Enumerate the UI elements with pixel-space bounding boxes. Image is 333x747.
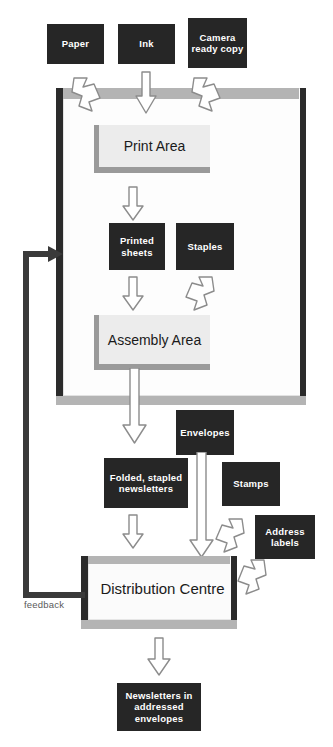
material-box-folded-stapled-newsletters[interactable]: Folded, stapled newsletters — [104, 458, 188, 508]
distribution-centre-left-edge — [81, 556, 88, 620]
material-box-ink[interactable]: Ink — [118, 24, 175, 64]
material-box-folded-stapled-newsletters-label: Folded, stapled newsletters — [106, 472, 186, 495]
process-box-print-area[interactable]: Print Area — [94, 125, 210, 173]
material-box-envelopes[interactable]: Envelopes — [176, 410, 234, 455]
material-box-address-labels-label: Address labels — [257, 526, 313, 549]
material-box-paper-label: Paper — [62, 38, 89, 50]
material-box-staples-label: Staples — [187, 241, 222, 253]
arrow-print-area-to-printed-sheets — [121, 185, 145, 223]
distribution-centre-right-edge — [231, 556, 237, 620]
material-box-camera-ready-copy-label: Camera ready copy — [190, 32, 245, 55]
material-box-printed-sheets[interactable]: Printed sheets — [109, 223, 165, 270]
arrow-ink-to-print-area — [134, 70, 158, 116]
material-box-envelopes-label: Envelopes — [180, 427, 229, 439]
arrow-assembly-area-to-folded-newsletters — [121, 368, 149, 446]
distribution-centre-top-band — [88, 556, 230, 564]
print-area-label: Print Area — [99, 125, 210, 167]
material-box-newsletters-in-addressed-envelopes[interactable]: Newsletters in addressed envelopes — [117, 683, 201, 731]
material-box-stamps-label: Stamps — [233, 478, 269, 490]
material-box-address-labels[interactable]: Address labels — [255, 515, 315, 559]
process-box-assembly-area[interactable]: Assembly Area — [94, 315, 210, 370]
production-area-right-edge — [300, 88, 306, 396]
arrow-staples-to-assembly-area — [183, 275, 216, 313]
arrow-distribution-centre-to-output — [146, 636, 172, 678]
feedback-line-bottom — [23, 592, 85, 598]
material-box-ink-label: Ink — [139, 38, 153, 50]
distribution-centre-label: Distribution Centre — [88, 556, 237, 620]
print-area-bottom-shadow — [94, 167, 210, 173]
material-box-paper[interactable]: Paper — [47, 24, 104, 64]
material-box-stamps[interactable]: Stamps — [222, 462, 280, 506]
production-area-left-edge — [56, 88, 63, 396]
arrow-folded-newsletters-to-distribution-centre — [121, 513, 145, 551]
arrow-printed-sheets-to-assembly-area — [121, 275, 145, 313]
arrow-paper-to-print-area — [70, 76, 104, 116]
assembly-area-bottom-shadow — [94, 364, 210, 370]
process-box-distribution-centre[interactable]: Distribution Centre — [81, 556, 237, 629]
feedback-label: feedback — [24, 599, 64, 610]
feedback-arrowhead-icon — [48, 245, 64, 263]
material-box-camera-ready-copy[interactable]: Camera ready copy — [188, 18, 247, 68]
distribution-centre-bottom-shadow — [81, 620, 237, 629]
assembly-area-label: Assembly Area — [99, 315, 210, 364]
flowchart-diagram: Paper Ink Camera ready copy Print A — [0, 0, 333, 747]
material-box-staples[interactable]: Staples — [176, 223, 234, 270]
arrow-camera-ready-copy-to-print-area — [190, 76, 224, 116]
material-box-printed-sheets-label: Printed sheets — [111, 235, 163, 258]
feedback-line-vertical — [23, 251, 29, 598]
arrow-stamps-to-distribution-centre — [213, 517, 246, 555]
arrow-address-labels-to-distribution-centre — [235, 558, 268, 598]
material-box-output-label: Newsletters in addressed envelopes — [119, 690, 199, 725]
arrow-envelopes-to-distribution-centre — [189, 452, 215, 560]
production-area-bottom-shadow — [56, 396, 306, 405]
